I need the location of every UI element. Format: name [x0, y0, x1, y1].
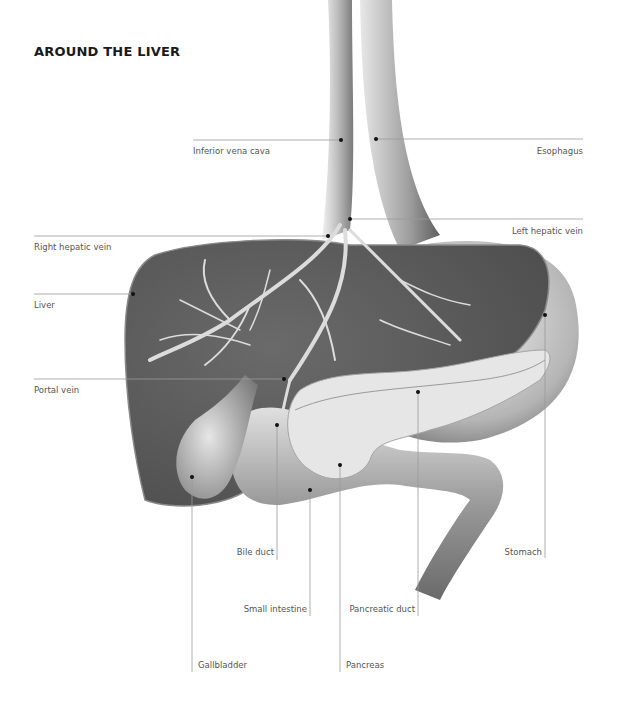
label-pancreatic-duct: Pancreatic duct — [349, 604, 415, 614]
inferior-vena-cava-shape — [322, 0, 353, 240]
label-portal-vein: Portal vein — [34, 385, 79, 395]
label-bile-duct: Bile duct — [237, 547, 274, 557]
label-stomach: Stomach — [505, 547, 542, 557]
label-pancreas: Pancreas — [346, 660, 384, 670]
label-inferior-vena-cava: Inferior vena cava — [193, 146, 270, 156]
label-left-hepatic-vein: Left hepatic vein — [512, 226, 583, 236]
label-esophagus: Esophagus — [537, 146, 583, 156]
liver-anatomy-illustration — [0, 0, 617, 704]
esophagus-shape — [360, 0, 440, 250]
label-liver: Liver — [34, 300, 55, 310]
label-gallbladder: Gallbladder — [198, 660, 247, 670]
label-small-intestine: Small intestine — [244, 604, 307, 614]
label-right-hepatic-vein: Right hepatic vein — [34, 242, 111, 252]
